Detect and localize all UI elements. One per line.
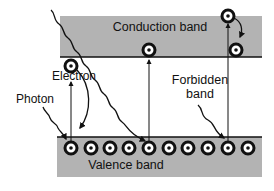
- forbidden-band-label: Forbidden: [172, 73, 228, 87]
- forbidden-band-label-2: band: [186, 87, 214, 101]
- electron-icon: [143, 142, 155, 154]
- electron-excitation-middle: [143, 44, 155, 141]
- relaxed-electron-icon: [230, 44, 242, 56]
- electron-icon: [182, 142, 194, 154]
- electron-icon: [123, 142, 135, 154]
- electron-icon: [222, 142, 234, 154]
- electron-icon: [65, 142, 77, 154]
- conduction-band-label: Conduction band: [113, 20, 208, 34]
- photon-squiggle-right: [198, 105, 224, 138]
- electron-icon: [104, 142, 116, 154]
- electron-gap-transition: Electron Photon: [16, 60, 96, 141]
- electron-icon: [202, 142, 214, 154]
- forbidden-band: Forbidden band: [172, 73, 228, 138]
- hot-electron-icon: [222, 10, 234, 22]
- electron-icon: [242, 142, 254, 154]
- electron-icon: [163, 142, 175, 154]
- photon-squiggle-left: [43, 107, 66, 139]
- band-gap-diagram: Conduction band Valence band Electron Ph…: [0, 0, 274, 191]
- conduction-electron-icon: [143, 44, 155, 56]
- photon-label: Photon: [16, 92, 54, 106]
- valence-band-label: Valence band: [88, 158, 164, 172]
- electron-icon: [85, 142, 97, 154]
